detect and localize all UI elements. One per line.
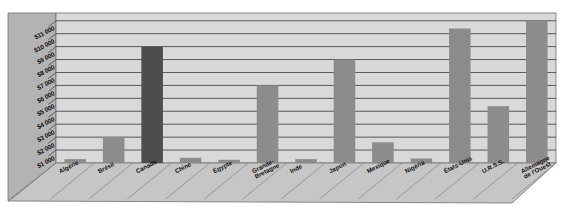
bar-U.R.S.S. [488,106,510,163]
chart-canvas [0,0,563,207]
bar-chart-3d: $1 000$2 000$3 000$4 000$5 000$6 000$7 0… [0,0,563,207]
bar-face [526,21,548,163]
bar-face [103,137,125,163]
bar-face [141,47,163,163]
bar-Brésil [103,137,125,163]
bar-face [449,29,471,163]
plot-background [56,13,556,163]
bar-Canada [141,47,163,163]
bar-face [334,60,356,163]
bar-Japon [334,60,356,163]
chart-floor [8,163,556,203]
bar-États-Unis [449,29,471,163]
bar-face [488,106,510,163]
chart-screenshot: $1 000$2 000$3 000$4 000$5 000$6 000$7 0… [0,0,563,207]
bar-Allemagne de l'Ouest [526,21,548,163]
bar-Grande-Bretagne [257,85,279,163]
bar-face [257,85,279,163]
